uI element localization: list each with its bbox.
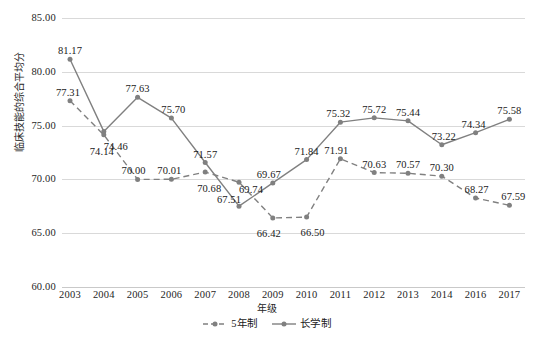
data-label: 81.17: [58, 45, 82, 56]
data-point: [406, 118, 411, 123]
x-tick-label-2006: 2006: [154, 289, 188, 300]
x-axis-title: 年级: [0, 303, 533, 314]
legend-label: 5年制: [231, 318, 257, 330]
data-label: 69.67: [257, 169, 281, 180]
data-point: [473, 196, 478, 201]
data-label: 66.42: [257, 228, 281, 239]
data-label: 70.01: [157, 165, 181, 176]
data-point: [203, 170, 208, 175]
legend-swatch-dashed-line-icon: [202, 319, 228, 329]
data-label: 77.31: [56, 87, 80, 98]
x-tick-label-2012: 2012: [357, 289, 391, 300]
data-label: 70.30: [430, 162, 454, 173]
x-tick-label-2017: 2017: [492, 289, 526, 300]
x-tick-label-2014: 2014: [425, 289, 459, 300]
legend-swatch-solid-line-icon: [271, 319, 297, 329]
x-tick-label-2008: 2008: [222, 289, 256, 300]
data-label: 67.59: [501, 191, 525, 202]
data-label: 75.72: [362, 104, 386, 115]
legend-item-长学制[interactable]: 长学制: [271, 318, 331, 330]
x-tick-label-2007: 2007: [188, 289, 222, 300]
data-label: 70.57: [396, 159, 420, 170]
data-label: 75.70: [161, 104, 185, 115]
data-label: 70.63: [362, 159, 386, 170]
data-label: 71.57: [193, 149, 217, 160]
data-point: [101, 129, 106, 134]
data-point: [372, 115, 377, 120]
chart-legend: 5年制长学制: [0, 318, 533, 330]
data-label: 75.44: [396, 107, 420, 118]
data-point: [338, 120, 343, 125]
y-axis-title: 临床技能的综合平均分: [14, 27, 25, 177]
x-tick-label-2005: 2005: [121, 289, 155, 300]
series-line-5年制: [70, 101, 509, 218]
x-tick-label-2016: 2016: [459, 289, 493, 300]
data-point: [135, 177, 140, 182]
data-point: [338, 156, 343, 161]
data-point: [473, 130, 478, 135]
data-point: [507, 203, 512, 208]
x-tick-label-2009: 2009: [256, 289, 290, 300]
data-label: 70.00: [122, 165, 146, 176]
data-label: 66.50: [301, 227, 325, 238]
data-point: [439, 142, 444, 147]
data-point: [507, 117, 512, 122]
x-tick-label-2003: 2003: [53, 289, 87, 300]
data-label: 73.22: [432, 131, 456, 142]
x-tick-label-2013: 2013: [391, 289, 425, 300]
data-point: [372, 170, 377, 175]
legend-item-5年制[interactable]: 5年制: [202, 318, 257, 330]
data-point: [68, 98, 73, 103]
data-point: [304, 215, 309, 220]
data-label: 70.68: [197, 183, 221, 194]
data-point: [135, 95, 140, 100]
data-label: 68.27: [465, 184, 489, 195]
data-label: 67.51: [217, 194, 241, 205]
data-point: [270, 215, 275, 220]
data-label: 71.84: [295, 146, 319, 157]
x-tick-label-2004: 2004: [87, 289, 121, 300]
legend-label: 长学制: [300, 318, 331, 330]
data-point: [169, 177, 174, 182]
data-point: [439, 174, 444, 179]
data-label: 74.34: [462, 119, 486, 130]
data-point: [203, 160, 208, 165]
data-label: 75.32: [326, 108, 350, 119]
data-label: 69.74: [239, 184, 263, 195]
data-point: [406, 171, 411, 176]
data-point: [304, 157, 309, 162]
data-point: [270, 180, 275, 185]
data-point: [169, 116, 174, 121]
x-tick-label-2011: 2011: [323, 289, 357, 300]
x-tick-label-2010: 2010: [290, 289, 324, 300]
data-point: [68, 57, 73, 62]
line-chart: 60.0065.0070.0075.0080.0085.00 77.3174.1…: [0, 0, 533, 341]
data-label: 77.63: [126, 83, 150, 94]
data-label: 71.91: [324, 145, 348, 156]
data-label: 74.46: [104, 141, 128, 152]
data-label: 75.58: [497, 105, 521, 116]
